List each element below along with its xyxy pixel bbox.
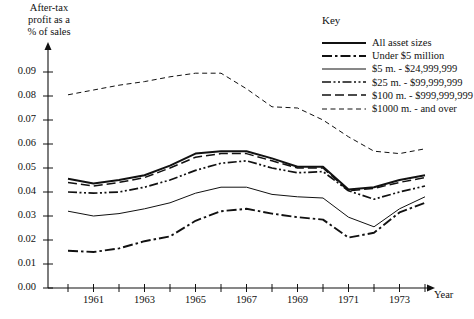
data-series-line	[68, 187, 425, 227]
y-tick-label: 0.09	[2, 65, 36, 76]
x-tick-label: 1971	[331, 294, 367, 305]
legend-entries: All asset sizesUnder $5 million$5 m. - $…	[322, 36, 474, 115]
data-series-line	[68, 151, 425, 189]
x-axis-title: Year	[434, 289, 474, 301]
legend-item[interactable]: $5 m. - $24,999,999	[322, 62, 474, 75]
legend-item[interactable]: $100 m. - $999,999,999	[322, 89, 474, 102]
y-tick-label: 0.03	[2, 209, 36, 220]
legend-line-swatch	[322, 76, 366, 88]
legend-item[interactable]: Under $5 million	[322, 49, 474, 62]
chart-container: After-tax profit as a % of sales Year 0.…	[0, 0, 474, 319]
y-tick-label: 0.06	[2, 137, 36, 148]
x-tick-label: 1973	[382, 294, 418, 305]
legend-label: $100 m. - $999,999,999	[372, 90, 473, 101]
x-tick-label: 1965	[178, 294, 214, 305]
y-tick-label: 0.00	[2, 281, 36, 292]
legend-item[interactable]: All asset sizes	[322, 36, 474, 49]
legend-line-swatch	[322, 50, 366, 62]
y-tick-label: 0.04	[2, 185, 36, 196]
legend-line-swatch	[322, 103, 366, 115]
legend-label: $5 m. - $24,999,999	[372, 63, 457, 74]
y-tick-label: 0.02	[2, 233, 36, 244]
legend-label: Under $5 million	[372, 50, 444, 61]
y-tick-label: 0.07	[2, 113, 36, 124]
x-tick-label: 1969	[280, 294, 316, 305]
legend-line-swatch	[322, 63, 366, 75]
legend-label: All asset sizes	[372, 37, 432, 48]
x-tick-label: 1961	[76, 294, 112, 305]
legend-line-swatch	[322, 37, 366, 49]
y-tick-label: 0.01	[2, 257, 36, 268]
y-tick-label: 0.08	[2, 89, 36, 100]
x-tick-label: 1967	[229, 294, 265, 305]
y-tick-label: 0.05	[2, 161, 36, 172]
data-series-line	[68, 203, 425, 252]
legend-label: $1000 m. - and over	[372, 103, 457, 114]
legend: Key All asset sizesUnder $5 million$5 m.…	[322, 14, 474, 115]
legend-item[interactable]: $25 m. - $99,999,999	[322, 76, 474, 89]
x-tick-label: 1963	[127, 294, 163, 305]
data-series-line	[68, 154, 425, 191]
legend-line-swatch	[322, 89, 366, 101]
legend-label: $25 m. - $99,999,999	[372, 77, 462, 88]
legend-item[interactable]: $1000 m. - and over	[322, 102, 474, 115]
legend-title: Key	[322, 14, 474, 26]
y-axis-title: After-tax profit as a % of sales	[6, 2, 92, 38]
